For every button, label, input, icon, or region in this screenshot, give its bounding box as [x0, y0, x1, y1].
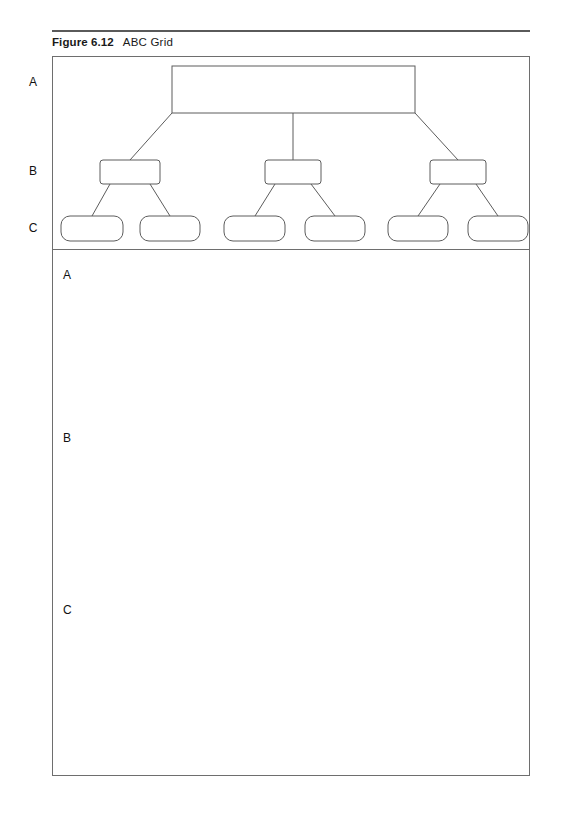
edge-b1-c2 — [150, 184, 170, 216]
edge-b3-c6 — [476, 184, 498, 216]
node-c4[interactable] — [305, 216, 365, 241]
figure-title: ABC Grid — [123, 36, 173, 48]
worksheet-row-label-b: B — [63, 432, 71, 444]
level-label-c: C — [26, 222, 40, 234]
caption-rule — [52, 30, 530, 32]
level-label-a: A — [26, 76, 40, 88]
node-c2[interactable] — [140, 216, 200, 241]
node-c6[interactable] — [468, 216, 528, 241]
node-c5[interactable] — [388, 216, 448, 241]
edge-a1-b3 — [415, 113, 458, 160]
node-b3[interactable] — [430, 160, 486, 184]
edge-b2-c4 — [311, 184, 335, 216]
edge-b3-c5 — [418, 184, 440, 216]
worksheet-row-label-a: A — [63, 269, 71, 281]
node-b2[interactable] — [265, 160, 321, 184]
edge-a1-b1 — [130, 113, 172, 160]
node-c1[interactable] — [61, 216, 123, 241]
figure-number: Figure 6.12 — [52, 36, 114, 48]
worksheet-row-label-c: C — [63, 604, 72, 616]
level-label-b: B — [26, 165, 40, 177]
edge-b2-c3 — [255, 184, 275, 216]
abc-hierarchy-tree — [52, 56, 530, 250]
figure-caption: Figure 6.12ABC Grid — [52, 35, 173, 50]
node-c3[interactable] — [224, 216, 285, 241]
node-b1[interactable] — [100, 160, 160, 184]
worksheet-panel[interactable] — [52, 249, 530, 776]
node-a1[interactable] — [172, 66, 415, 113]
edge-b1-c1 — [92, 184, 110, 216]
